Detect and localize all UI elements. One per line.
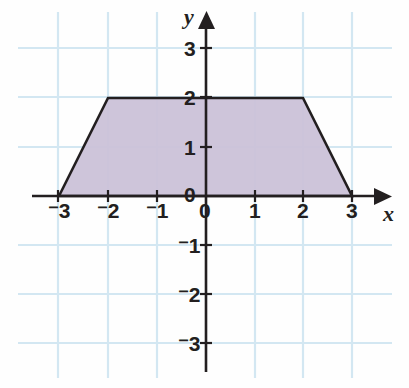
x-tick-label-zero: 0 xyxy=(199,200,210,221)
y-tick-label-zero: 0 xyxy=(184,184,195,205)
x-tick-label-neg3: ⁻3 xyxy=(48,200,70,221)
y-tick-label-neg3: ⁻3 xyxy=(178,333,200,354)
graph-canvas xyxy=(0,0,409,388)
x-axis-label: x xyxy=(383,203,394,225)
y-tick-label-3: 3 xyxy=(184,38,195,59)
x-tick-label-1: 1 xyxy=(249,200,260,221)
y-axis-label: y xyxy=(184,6,194,28)
x-tick-label-2: 2 xyxy=(297,200,308,221)
y-tick-label-1: 1 xyxy=(184,137,195,158)
x-tick-label-3: 3 xyxy=(346,200,357,221)
x-tick-label-neg2: ⁻2 xyxy=(97,200,119,221)
axes xyxy=(32,24,377,372)
x-tick-label-neg1: ⁻1 xyxy=(146,200,168,221)
y-axis-arrowhead xyxy=(198,11,215,29)
y-tick-label-2: 2 xyxy=(184,87,195,108)
y-tick-label-neg2: ⁻2 xyxy=(178,284,200,305)
y-tick-label-neg1: ⁻1 xyxy=(178,235,200,256)
coordinate-plane-figure: ⁻3 ⁻2 ⁻1 0 1 2 3 3 2 1 0 ⁻1 ⁻2 ⁻3 x y xyxy=(0,0,409,388)
